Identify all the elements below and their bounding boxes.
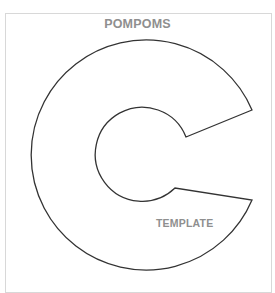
- template-label: TEMPLATE: [156, 217, 213, 229]
